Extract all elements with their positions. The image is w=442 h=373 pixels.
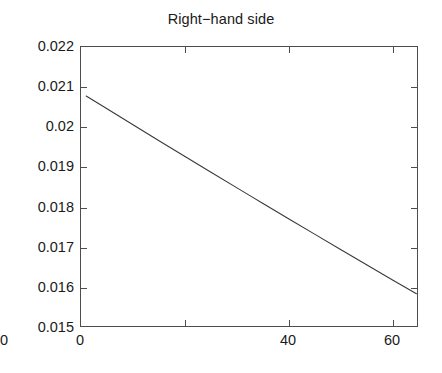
x-tick-label: 20	[0, 333, 8, 348]
plot-area	[80, 46, 418, 327]
series-line-right-hand-side	[86, 96, 416, 294]
y-tick-label: 0.016	[38, 280, 74, 295]
x-tick-label: 0	[76, 333, 84, 348]
y-tick-label: 0.015	[38, 320, 74, 335]
y-tick-label: 0.021	[38, 79, 74, 94]
y-tick-label: 0.018	[38, 199, 74, 214]
y-tick-label: 0.022	[38, 39, 74, 54]
chart-figure: Right−hand side 0.022 0.021 0.02 0.019 0…	[0, 0, 442, 373]
data-line-svg	[81, 47, 419, 328]
y-tick-label: 0.02	[46, 119, 74, 134]
x-tick-label: 40	[280, 333, 296, 348]
y-tick-label: 0.017	[38, 239, 74, 254]
x-tick-label: 60	[384, 333, 400, 348]
y-tick-label: 0.019	[38, 159, 74, 174]
chart-title: Right−hand side	[0, 11, 442, 27]
